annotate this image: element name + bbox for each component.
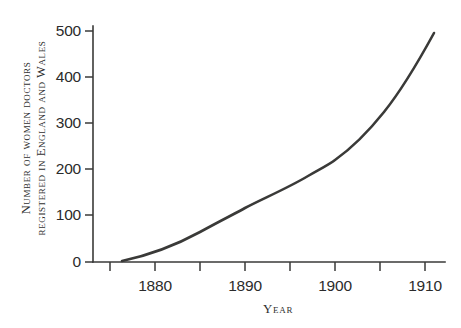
x-axis-title: Year	[248, 301, 308, 317]
y-tick-label-100: 100	[55, 206, 81, 224]
y-axis-title-group: Number of women doctors registered in En…	[19, 41, 48, 236]
data-series-line	[122, 33, 434, 261]
y-axis-title-line2: registered in England and Wales	[34, 41, 48, 236]
chart-figure: Number of women doctors registered in En…	[0, 0, 461, 328]
y-tick-label-0: 0	[55, 253, 81, 271]
y-axis-title-line1: Number of women doctors	[19, 62, 33, 215]
y-tick-label-300: 300	[55, 114, 81, 132]
y-tick-label-400: 400	[55, 68, 81, 86]
x-tick-label-1900: 1900	[310, 277, 360, 295]
y-tick-label-200: 200	[55, 160, 81, 178]
x-tick-label-1910: 1910	[400, 277, 450, 295]
x-tick-label-1890: 1890	[220, 277, 270, 295]
y-axis-ticks	[85, 31, 93, 262]
x-axis-ticks	[110, 262, 425, 271]
x-tick-label-1880: 1880	[130, 277, 180, 295]
y-tick-label-500: 500	[55, 22, 81, 40]
